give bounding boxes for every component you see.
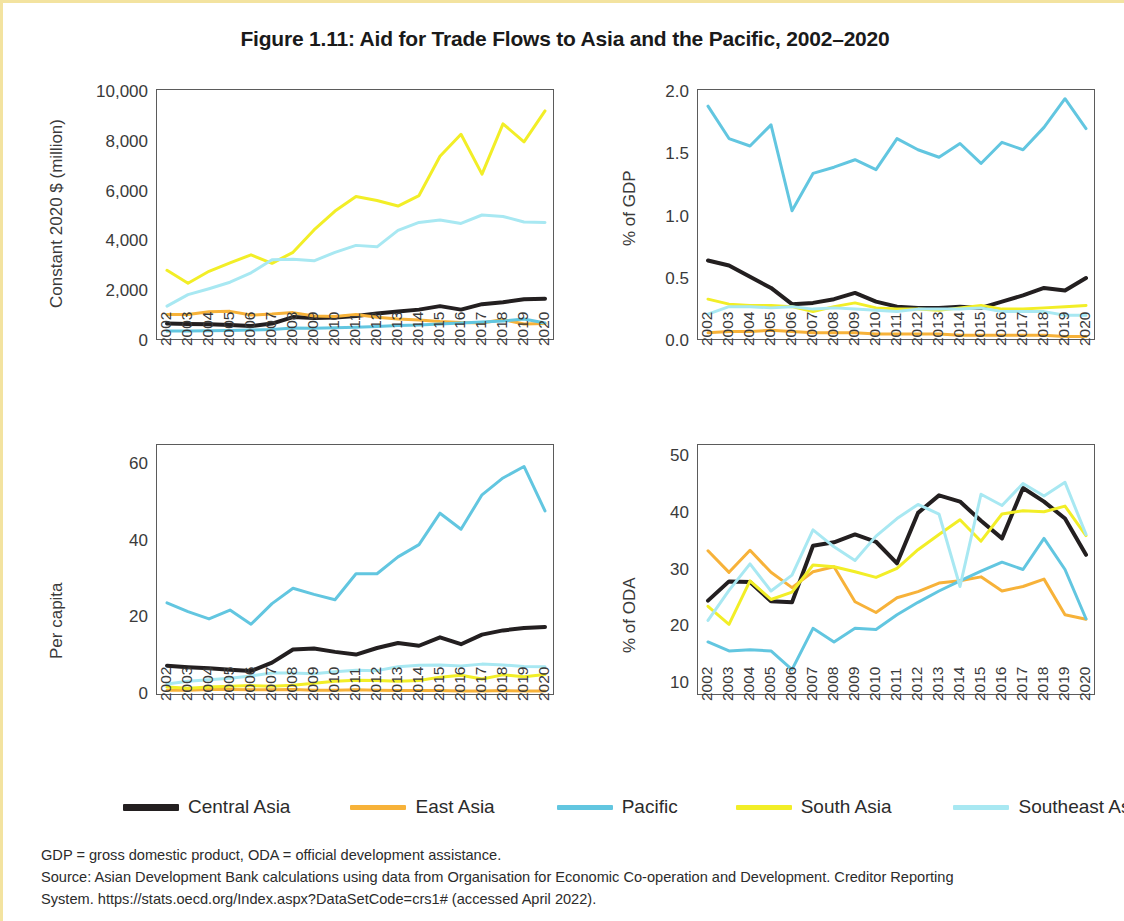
x-tick-label: 2015 bbox=[431, 667, 447, 701]
x-tick-label: 2017 bbox=[473, 312, 489, 346]
y-tick-label: 20 bbox=[670, 617, 689, 634]
plot-area-constant-dollars bbox=[156, 89, 554, 340]
y-axis-ticks-per-capita: 0204060 bbox=[65, 444, 148, 695]
x-tick-label: 2005 bbox=[762, 312, 778, 346]
x-tick-label: 2014 bbox=[410, 667, 426, 701]
x-tick-label: 2018 bbox=[494, 312, 510, 346]
x-tick-label: 2016 bbox=[452, 312, 468, 346]
x-tick-label: 2011 bbox=[347, 668, 363, 701]
figure-notes: GDP = gross domestic product, ODA = offi… bbox=[41, 844, 1111, 911]
legend-item-east-asia[interactable]: East Asia bbox=[350, 796, 494, 818]
x-tick-label: 2017 bbox=[473, 667, 489, 701]
x-tick-label: 2006 bbox=[783, 312, 799, 346]
x-tick-label: 2015 bbox=[972, 312, 988, 346]
notes-source-line-2: System. https://stats.oecd.org/Index.asp… bbox=[41, 888, 1111, 910]
y-tick-label: 10 bbox=[670, 673, 689, 690]
x-tick-label: 2004 bbox=[200, 312, 216, 346]
x-tick-label: 2010 bbox=[326, 312, 342, 346]
x-tick-label: 2006 bbox=[783, 667, 799, 701]
panel-per-capita: Per capita 0204060 200220032004200520062… bbox=[3, 358, 565, 778]
y-tick-label: 4,000 bbox=[105, 232, 148, 249]
chart-canvas-percent-gdp bbox=[698, 90, 1094, 339]
legend-item-pacific[interactable]: Pacific bbox=[557, 796, 678, 818]
series-line-pacific bbox=[708, 538, 1086, 669]
x-tick-label: 2017 bbox=[1014, 312, 1030, 346]
y-tick-label: 6,000 bbox=[105, 182, 148, 199]
figure-page: Figure 1.11: Aid for Trade Flows to Asia… bbox=[0, 0, 1124, 921]
y-tick-label: 40 bbox=[670, 503, 689, 520]
x-tick-label: 2003 bbox=[179, 667, 195, 701]
y-tick-label: 10,000 bbox=[96, 83, 148, 100]
y-tick-label: 30 bbox=[670, 560, 689, 577]
y-tick-label: 0 bbox=[139, 685, 148, 702]
legend-item-central-asia[interactable]: Central Asia bbox=[123, 796, 290, 818]
x-tick-label: 2002 bbox=[699, 312, 715, 346]
x-tick-label: 2018 bbox=[494, 667, 510, 701]
x-axis-ticks-per-capita: 2002200320042005200620072008200920102011… bbox=[156, 701, 554, 761]
legend-label: Southeast Asia bbox=[1018, 796, 1124, 818]
x-tick-label: 2009 bbox=[305, 312, 321, 346]
legend-item-southeast-asia[interactable]: Southeast Asia bbox=[953, 796, 1124, 818]
x-tick-label: 2019 bbox=[515, 667, 531, 701]
legend-label: South Asia bbox=[801, 796, 892, 818]
x-tick-label: 2005 bbox=[762, 667, 778, 701]
x-tick-label: 2004 bbox=[200, 667, 216, 701]
x-tick-label: 2014 bbox=[951, 667, 967, 701]
legend-label: Central Asia bbox=[188, 796, 290, 818]
x-tick-label: 2005 bbox=[221, 667, 237, 701]
x-tick-label: 2008 bbox=[284, 312, 300, 346]
series-line-southeast-asia bbox=[708, 482, 1086, 620]
panel-percent-oda: % of ODA 1020304050 20022003200420052006… bbox=[565, 358, 1124, 778]
x-tick-label: 2008 bbox=[284, 667, 300, 701]
x-tick-label: 2009 bbox=[305, 667, 321, 701]
y-tick-label: 0.0 bbox=[665, 332, 689, 349]
x-tick-label: 2010 bbox=[326, 667, 342, 701]
x-tick-label: 2011 bbox=[888, 668, 904, 701]
x-tick-label: 2004 bbox=[741, 667, 757, 701]
x-tick-label: 2010 bbox=[867, 667, 883, 701]
x-tick-label: 2009 bbox=[846, 312, 862, 346]
x-tick-label: 2004 bbox=[741, 312, 757, 346]
chart-canvas-per-capita bbox=[157, 445, 553, 694]
x-tick-label: 2018 bbox=[1035, 312, 1051, 346]
y-tick-label: 20 bbox=[129, 608, 148, 625]
x-tick-label: 2007 bbox=[804, 667, 820, 701]
legend-swatch-icon bbox=[123, 804, 179, 811]
x-tick-label: 2020 bbox=[536, 312, 552, 346]
x-tick-label: 2007 bbox=[263, 667, 279, 701]
x-tick-label: 2010 bbox=[867, 312, 883, 346]
x-tick-label: 2019 bbox=[1056, 667, 1072, 701]
x-tick-label: 2011 bbox=[888, 313, 904, 346]
x-tick-label: 2020 bbox=[1077, 312, 1093, 346]
x-tick-label: 2019 bbox=[515, 312, 531, 346]
x-tick-label: 2013 bbox=[930, 312, 946, 346]
notes-source-line-1: Source: Asian Development Bank calculati… bbox=[41, 866, 1111, 888]
x-tick-label: 2002 bbox=[158, 667, 174, 701]
series-line-central-asia bbox=[708, 261, 1086, 308]
x-tick-label: 2003 bbox=[720, 312, 736, 346]
legend-swatch-icon bbox=[953, 805, 1009, 810]
chart-canvas-constant-dollars bbox=[157, 90, 553, 339]
x-tick-label: 2012 bbox=[909, 312, 925, 346]
x-tick-label: 2012 bbox=[368, 312, 384, 346]
y-tick-label: 1.0 bbox=[665, 207, 689, 224]
legend-swatch-icon bbox=[350, 805, 406, 810]
plot-area-percent-oda bbox=[697, 444, 1095, 695]
x-tick-label: 2016 bbox=[452, 667, 468, 701]
legend-label: East Asia bbox=[415, 796, 494, 818]
y-tick-label: 2,000 bbox=[105, 282, 148, 299]
y-tick-label: 60 bbox=[129, 455, 148, 472]
y-tick-label: 0.5 bbox=[665, 269, 689, 286]
x-tick-label: 2012 bbox=[368, 667, 384, 701]
chart-canvas-percent-oda bbox=[698, 445, 1094, 694]
x-tick-label: 2014 bbox=[951, 312, 967, 346]
x-tick-label: 2003 bbox=[179, 312, 195, 346]
x-tick-label: 2009 bbox=[846, 667, 862, 701]
legend-swatch-icon bbox=[736, 805, 792, 810]
x-tick-label: 2006 bbox=[242, 667, 258, 701]
x-tick-label: 2020 bbox=[536, 667, 552, 701]
legend-item-south-asia[interactable]: South Asia bbox=[736, 796, 892, 818]
x-tick-label: 2015 bbox=[972, 667, 988, 701]
chart-legend: Central AsiaEast AsiaPacificSouth AsiaSo… bbox=[123, 796, 1123, 818]
x-tick-label: 2005 bbox=[221, 312, 237, 346]
